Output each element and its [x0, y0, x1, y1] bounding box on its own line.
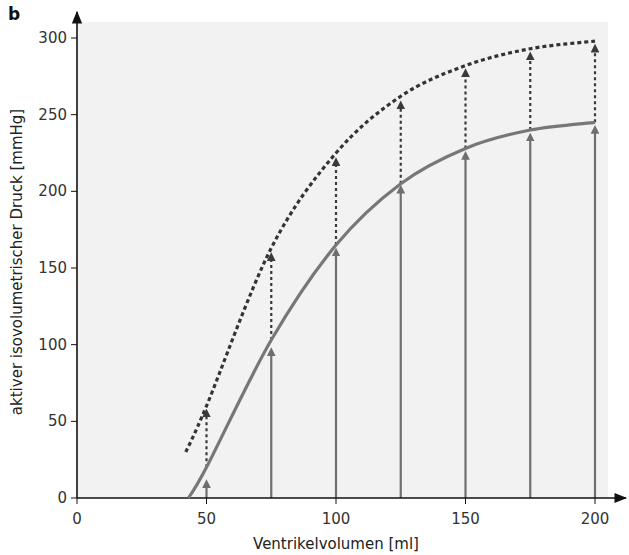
- y-tick-label: 200: [38, 182, 67, 200]
- x-ticks: 050100150200: [72, 498, 609, 528]
- x-tick-label: 200: [581, 510, 610, 528]
- y-tick-label: 300: [38, 29, 67, 47]
- x-tick-label: 150: [451, 510, 480, 528]
- y-tick-label: 250: [38, 106, 67, 124]
- chart: 050100150200 050100150200250300 b Ventri…: [0, 0, 629, 555]
- y-tick-label: 100: [38, 336, 67, 354]
- y-tick-label: 50: [48, 412, 67, 430]
- y-tick-label: 150: [38, 259, 67, 277]
- panel-letter: b: [8, 4, 20, 24]
- y-ticks: 050100150200250300: [38, 29, 77, 507]
- x-tick-label: 50: [197, 510, 216, 528]
- x-tick-label: 100: [322, 510, 351, 528]
- x-axis-title: Ventrikelvolumen [ml]: [253, 535, 419, 553]
- plot-background: [78, 22, 608, 498]
- y-tick-label: 0: [57, 489, 67, 507]
- x-tick-label: 0: [72, 510, 82, 528]
- y-axis-title: aktiver isovolumetrischer Druck [mmHg]: [8, 109, 26, 415]
